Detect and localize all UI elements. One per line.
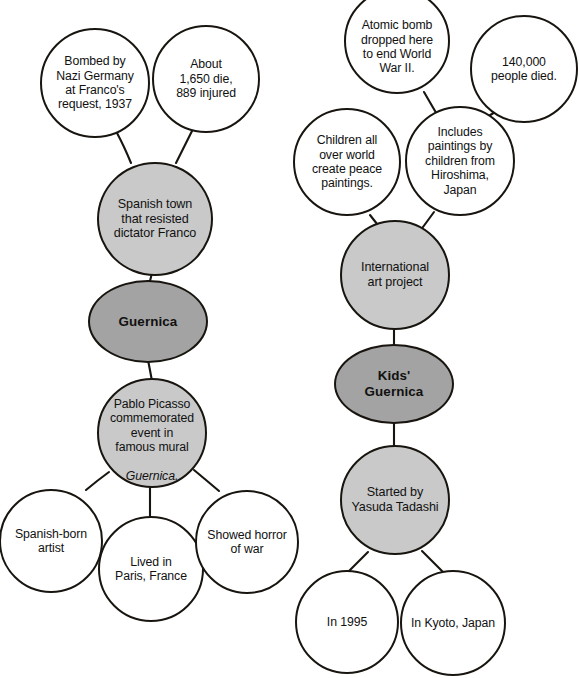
edge-casualties-town (176, 131, 192, 163)
node-label: Kids' Guernica (336, 368, 452, 399)
node-label-mural-title: Guernica. (126, 469, 178, 483)
edge-bombed-town (117, 133, 131, 163)
node-about-casualties[interactable]: About 1,650 die, 889 injured (152, 25, 260, 133)
node-in-kyoto-japan[interactable]: In Kyoto, Japan (400, 570, 506, 676)
edge-started-kyoto (422, 551, 444, 573)
node-140000-people-died[interactable]: 140,000 people died. (470, 15, 578, 123)
node-label: Includes paintings by children from Hiro… (407, 125, 513, 197)
node-spanish-town[interactable]: Spanish town that resisted dictator Fran… (97, 162, 213, 276)
node-label: Showed horror of war (197, 528, 297, 557)
node-label: Pablo Picasso commemorated event in famo… (99, 383, 205, 484)
node-root-guernica[interactable]: Guernica (88, 280, 208, 363)
node-label: Spanish-born artist (1, 527, 101, 556)
node-atomic-bomb[interactable]: Atomic bomb dropped here to end World Wa… (344, 0, 450, 94)
concept-map-canvas: Bombed by Nazi Germany at Franco's reque… (0, 0, 579, 678)
node-label: Lived in Paris, France (100, 555, 202, 584)
node-showed-horror-of-war[interactable]: Showed horror of war (195, 490, 299, 594)
node-root-kids-guernica[interactable]: Kids' Guernica (334, 344, 454, 424)
node-bombed-by-nazi-germany[interactable]: Bombed by Nazi Germany at Franco's reque… (40, 28, 150, 138)
node-label: Bombed by Nazi Germany at Franco's reque… (42, 54, 148, 112)
node-label: About 1,650 die, 889 injured (154, 57, 258, 100)
node-started-by-yasuda-tadashi[interactable]: Started by Yasuda Tadashi (340, 445, 450, 555)
node-label: In Kyoto, Japan (402, 616, 504, 630)
node-label: 140,000 people died. (472, 55, 576, 84)
node-label: Guernica (90, 314, 206, 330)
node-label: In 1995 (297, 615, 397, 629)
node-includes-paintings-hiroshima[interactable]: Includes paintings by children from Hiro… (405, 106, 515, 216)
node-international-art-project[interactable]: International art project (340, 220, 450, 330)
node-label: Spanish town that resisted dictator Fran… (99, 197, 211, 241)
node-label: Children all over world create peace pai… (295, 133, 399, 191)
node-lived-in-paris[interactable]: Lived in Paris, France (98, 516, 204, 622)
node-label: Atomic bomb dropped here to end World Wa… (346, 6, 448, 76)
node-label: International art project (342, 260, 448, 289)
node-in-1995[interactable]: In 1995 (295, 570, 399, 674)
node-label: Started by Yasuda Tadashi (342, 485, 448, 514)
node-spanish-born-artist[interactable]: Spanish-born artist (0, 489, 103, 593)
node-children-create-peace-paintings[interactable]: Children all over world create peace pai… (293, 108, 401, 216)
node-pablo-picasso[interactable]: Pablo Picasso commemorated event in famo… (97, 378, 207, 488)
node-label-main: Pablo Picasso commemorated event in famo… (110, 397, 194, 454)
